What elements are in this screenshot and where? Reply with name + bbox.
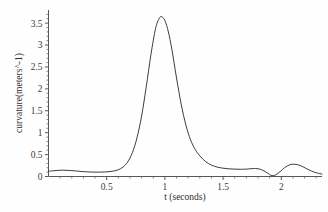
x-tick-label: 0.5 [101,182,113,192]
curvature-line-chart: 00.511.522.533.5 0.511.52 t (seconds) cu… [0,0,328,212]
y-tick-label: 2.5 [31,62,43,72]
y-tick-label: 1.5 [31,106,43,116]
x-axis-title: t (seconds) [164,192,205,203]
y-axis-title: curvature(meters^-1) [14,53,25,133]
y-tick-label: 3.5 [31,19,43,29]
y-tick-label: 0 [38,172,43,182]
chart-figure: 00.511.522.533.5 0.511.52 t (seconds) cu… [0,0,328,212]
y-tick-label: 3 [38,40,43,50]
x-tick-label: 1 [163,182,168,192]
chart-background [0,0,328,212]
y-tick-label: 2 [38,84,43,94]
y-tick-label: 1 [38,128,43,138]
x-tick-label: 1.5 [217,182,229,192]
x-tick-label: 2 [279,182,284,192]
y-tick-label: 0.5 [31,150,43,160]
